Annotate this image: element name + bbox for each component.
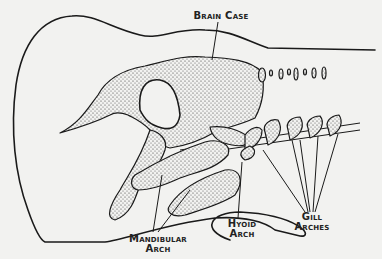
- leader-hyoid: [238, 162, 242, 218]
- skull-diagram: Brain Case Mandibular Arch Hyoid Arch Gi…: [0, 0, 382, 259]
- label-hyoid-arch: Hyoid Arch: [218, 219, 266, 239]
- vertebra-marks: [259, 67, 327, 82]
- label-gill-line2: Arches: [282, 222, 342, 232]
- label-brain-case: Brain Case: [181, 11, 261, 21]
- label-hyoid-line2: Arch: [218, 229, 266, 239]
- leader-gill: [263, 134, 338, 212]
- label-mandibular-arch: Mandibular Arch: [118, 234, 198, 254]
- label-mandibular-line2: Arch: [118, 244, 198, 254]
- gill-arches: [241, 115, 341, 160]
- label-gill-arches: Gill Arches: [282, 212, 342, 232]
- leader-brain-case: [212, 22, 218, 60]
